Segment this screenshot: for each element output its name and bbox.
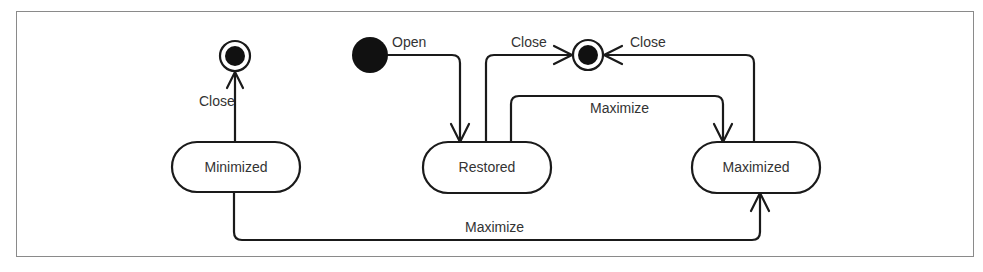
transition-label-maximize-upper: Maximize <box>590 100 649 116</box>
state-label-minimized: Minimized <box>204 159 267 175</box>
transition-label-close-restored: Close <box>511 34 547 50</box>
transition-minimized-maximize: Maximize <box>234 192 769 240</box>
state-label-restored: Restored <box>459 159 516 175</box>
transition-label-open: Open <box>392 34 426 50</box>
transition-label-close-left: Close <box>199 93 235 109</box>
state-label-maximized: Maximized <box>723 159 790 175</box>
state-minimized: Minimized <box>172 142 300 192</box>
initial-state-icon <box>352 37 388 73</box>
final-state-center-icon <box>573 40 603 70</box>
final-state-left-icon <box>220 41 250 71</box>
transition-restored-maximize: Maximize <box>511 96 732 142</box>
state-maximized: Maximized <box>692 142 820 193</box>
transition-minimized-close: Close <box>199 72 243 142</box>
state-restored: Restored <box>423 142 551 193</box>
transition-restored-close: Close <box>486 34 572 142</box>
transition-open: Open <box>388 34 469 142</box>
transition-label-maximize-lower: Maximize <box>465 219 524 235</box>
transition-label-close-maximized: Close <box>630 34 666 50</box>
state-diagram: Close Open Close Close Maximize Maximize <box>0 0 983 272</box>
